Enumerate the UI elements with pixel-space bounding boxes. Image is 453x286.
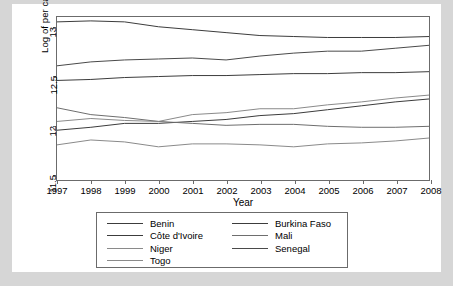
- legend-item-label: Niger: [150, 244, 173, 254]
- plot-area: Log of per capita GDP 11.51212.513 19971…: [56, 16, 430, 181]
- x-axis-title: Year: [56, 197, 430, 208]
- x-tick-label: 2003: [250, 185, 271, 196]
- legend-line-swatch: [232, 248, 268, 249]
- legend-line-swatch: [107, 235, 143, 236]
- x-tick-mark: [329, 180, 330, 184]
- x-tick-mark: [431, 180, 432, 184]
- legend-item-label: Senegal: [275, 244, 310, 254]
- x-tick-mark: [363, 180, 364, 184]
- legend: BeninBurkina FasoCôte d'IvoireMaliNigerS…: [96, 212, 348, 268]
- legend-item[interactable]: Burkina Faso: [222, 219, 347, 229]
- x-tick-label: 2006: [352, 185, 373, 196]
- x-tick-mark: [227, 180, 228, 184]
- legend-item-label: Benin: [150, 219, 174, 229]
- x-tick-label: 2005: [318, 185, 339, 196]
- x-tick-mark: [397, 180, 398, 184]
- x-tick-label: 2007: [386, 185, 407, 196]
- x-tick-label: 1999: [114, 185, 135, 196]
- legend-item-label: Burkina Faso: [275, 219, 331, 229]
- legend-item[interactable]: Senegal: [222, 244, 347, 254]
- legend-row: Côte d'IvoireMali: [97, 230, 347, 243]
- x-tick-label: 1997: [46, 185, 67, 196]
- legend-line-swatch: [232, 223, 268, 224]
- legend-item[interactable]: Côte d'Ivoire: [97, 231, 222, 241]
- series-line: [57, 72, 429, 81]
- x-tick-label: 2001: [182, 185, 203, 196]
- legend-row: Togo: [97, 255, 347, 268]
- x-tick-mark: [159, 180, 160, 184]
- x-tick-mark: [193, 180, 194, 184]
- legend-line-swatch: [107, 260, 143, 261]
- legend-row: BeninBurkina Faso: [97, 217, 347, 230]
- series-lines: [57, 17, 429, 180]
- legend-row: NigerSenegal: [97, 242, 347, 255]
- x-tick-label: 2008: [420, 185, 441, 196]
- legend-line-swatch: [232, 235, 268, 236]
- x-tick-mark: [261, 180, 262, 184]
- legend-item[interactable]: Mali: [222, 231, 347, 241]
- y-tick-label: 13: [48, 27, 59, 38]
- legend-item[interactable]: Benin: [97, 219, 222, 229]
- y-tick-label: 12.5: [48, 76, 59, 95]
- series-line: [57, 45, 429, 65]
- series-line: [57, 138, 429, 147]
- y-tick-label: 12: [48, 126, 59, 137]
- legend-item[interactable]: Togo: [97, 256, 222, 266]
- x-tick-mark: [57, 180, 58, 184]
- x-tick-label: 2002: [216, 185, 237, 196]
- x-tick-mark: [91, 180, 92, 184]
- series-line: [57, 99, 429, 130]
- x-tick-mark: [295, 180, 296, 184]
- legend-item[interactable]: Niger: [97, 244, 222, 254]
- x-tick-label: 2004: [284, 185, 305, 196]
- x-tick-label: 2000: [148, 185, 169, 196]
- legend-item-label: Côte d'Ivoire: [150, 231, 203, 241]
- legend-line-swatch: [107, 223, 143, 224]
- legend-line-swatch: [107, 248, 143, 249]
- series-line: [57, 21, 429, 38]
- legend-item-label: Mali: [275, 231, 292, 241]
- legend-item-label: Togo: [150, 256, 171, 266]
- x-tick-label: 1998: [80, 185, 101, 196]
- x-tick-mark: [125, 180, 126, 184]
- figure-canvas: Log of per capita GDP 11.51212.513 19971…: [12, 4, 441, 272]
